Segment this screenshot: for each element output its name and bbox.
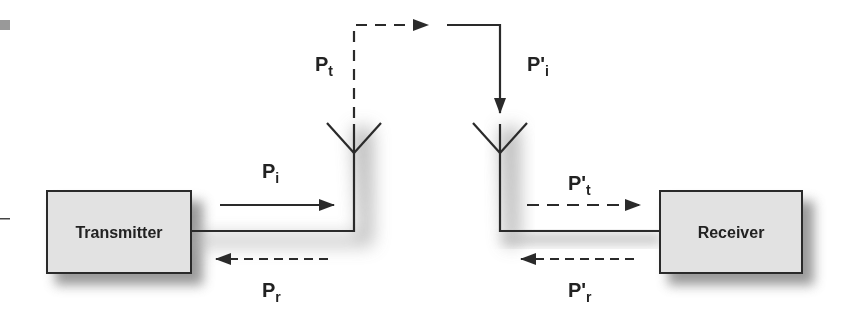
transmitted-power-arrow [354, 25, 428, 118]
radio-link-diagram: Transmitter Receiver Pt P'i Pi Pr P't P'… [0, 0, 861, 327]
transmitter-block: Transmitter [47, 191, 191, 273]
label-pt: Pt [315, 53, 333, 79]
label-pi: Pi [262, 160, 279, 186]
edge-mark-dash [0, 218, 10, 220]
label-pr: Pr [262, 279, 281, 305]
label-p-prime-t: P't [568, 172, 591, 198]
label-p-prime-i: P'i [527, 53, 549, 79]
receiver-block: Receiver [660, 191, 802, 273]
rx-antenna [473, 123, 660, 231]
transmitter-label: Transmitter [75, 224, 162, 241]
receiver-label: Receiver [698, 224, 765, 241]
label-p-prime-r: P'r [568, 279, 592, 305]
edge-mark-square [0, 20, 10, 30]
tx-antenna [191, 123, 381, 231]
incident-power-rx-arrow [447, 25, 500, 113]
